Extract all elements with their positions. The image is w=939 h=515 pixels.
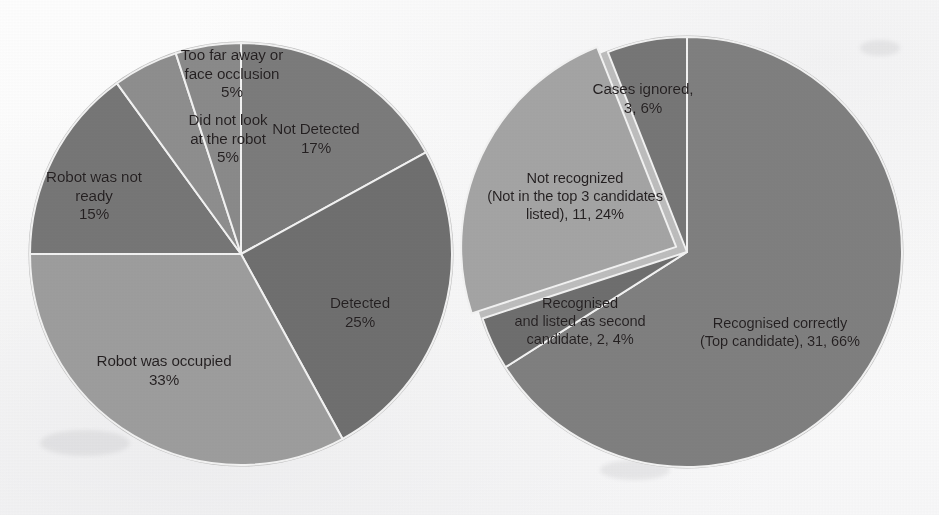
figure-canvas: Not Detected 17%Detected 25%Robot was oc… — [0, 0, 939, 515]
pie-slice-label: Cases ignored, 3, 6% — [593, 80, 694, 117]
pie-slice-label: Recognised correctly (Top candidate), 31… — [700, 315, 860, 351]
pie-labels-right: Recognised correctly (Top candidate), 31… — [0, 0, 939, 515]
pie-slice-label: Recognised and listed as second candidat… — [514, 295, 645, 348]
pie-slice-label: Not recognized (Not in the top 3 candida… — [487, 170, 663, 223]
